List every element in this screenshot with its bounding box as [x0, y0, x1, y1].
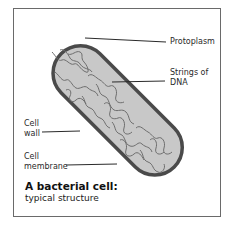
label-cell-membrane: Cell membrane: [24, 152, 68, 172]
label-dna: Strings of DNA: [170, 68, 208, 88]
label-cell-membrane-line2: membrane: [24, 162, 68, 171]
label-cell-wall: Cell wall: [24, 119, 40, 139]
caption-subtitle: typical structure: [25, 192, 118, 204]
caption-title: A bacterial cell:: [25, 180, 118, 192]
protoplasm-leader: [85, 38, 166, 42]
cell-wall-leader: [42, 131, 80, 132]
cell-membrane-leader: [66, 164, 117, 165]
label-cell-membrane-line1: Cell: [24, 152, 39, 161]
label-dna-line2: DNA: [170, 78, 188, 87]
label-cell-wall-line2: wall: [24, 129, 40, 138]
label-dna-line1: Strings of: [170, 68, 208, 77]
label-cell-wall-line1: Cell: [24, 119, 39, 128]
label-protoplasm: Protoplasm: [170, 37, 215, 47]
diagram-caption: A bacterial cell: typical structure: [25, 180, 118, 204]
